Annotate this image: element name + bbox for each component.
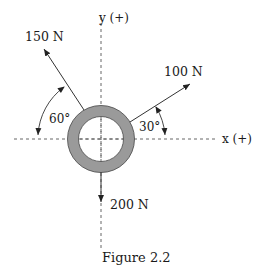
force-label-200n: 200 N (110, 197, 149, 212)
figure-caption: Figure 2.2 (102, 250, 171, 265)
angle-label-30: 30° (139, 120, 160, 134)
angle-arc-60 (38, 87, 64, 135)
force-label-100n: 100 N (164, 64, 203, 79)
angle-label-60: 60° (49, 112, 70, 126)
y-axis-label: y (+) (98, 11, 129, 25)
force-diagram: y (+) x (+) 150 N 100 N 200 N 60° 30° Fi… (0, 0, 259, 271)
x-axis-label: x (+) (222, 132, 252, 146)
force-label-150n: 150 N (25, 29, 64, 44)
force-arrow-100n (130, 84, 190, 122)
